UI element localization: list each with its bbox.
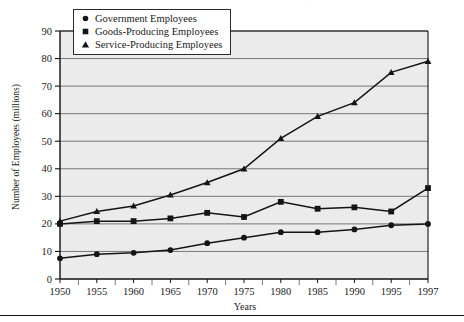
data-point xyxy=(241,235,247,241)
data-point xyxy=(352,227,358,233)
y-tick-label: 90 xyxy=(42,26,53,37)
square-marker-icon xyxy=(79,27,91,36)
data-point xyxy=(425,221,431,227)
y-tick-label: 20 xyxy=(42,218,53,229)
data-point xyxy=(388,209,394,215)
y-tick-label: 50 xyxy=(42,136,53,147)
y-tick-label: 70 xyxy=(42,81,53,92)
data-point xyxy=(388,222,394,228)
y-tick-label: 10 xyxy=(42,246,53,257)
data-point xyxy=(168,215,174,221)
x-tick-label: 1970 xyxy=(197,286,218,297)
plot-background xyxy=(60,31,428,279)
data-point xyxy=(315,229,321,235)
legend-item-label: Service-Producing Employees xyxy=(95,39,222,50)
data-point xyxy=(315,206,321,212)
data-point xyxy=(352,204,358,210)
x-tick-label: 1975 xyxy=(234,286,255,297)
y-tick-label: 80 xyxy=(42,53,53,64)
data-point xyxy=(94,251,100,257)
data-point xyxy=(94,218,100,224)
x-tick-label: 1960 xyxy=(123,286,144,297)
y-tick-label: 40 xyxy=(42,163,53,174)
data-point xyxy=(168,247,174,253)
data-point xyxy=(425,185,431,191)
legend-item-label: Goods-Producing Employees xyxy=(95,26,218,37)
plot-area: 0102030405060708090195019551960196519701… xyxy=(0,0,464,322)
legend-item-label: Government Employees xyxy=(95,13,197,24)
x-tick-label: 1965 xyxy=(160,286,181,297)
y-tick-label: 30 xyxy=(42,191,53,202)
x-tick-label: 1955 xyxy=(86,286,107,297)
x-tick-label: 1980 xyxy=(270,286,291,297)
y-tick-labels: 0102030405060708090 xyxy=(42,26,53,285)
legend-item-square: Goods-Producing Employees xyxy=(79,25,222,38)
x-tick-label: 1997 xyxy=(418,286,439,297)
legend-item-triangle: Service-Producing Employees xyxy=(79,38,222,51)
y-tick-label: 0 xyxy=(47,274,52,285)
data-point xyxy=(57,255,63,261)
circle-marker-icon xyxy=(79,14,91,23)
chart-figure: EMPLOYEES IN THREE MAJOR SECTORS, 1950-1… xyxy=(0,0,464,322)
data-point xyxy=(204,210,210,216)
data-point xyxy=(131,218,137,224)
x-tick-label: 1950 xyxy=(50,286,71,297)
triangle-marker-icon xyxy=(79,40,91,49)
y-tick-label: 60 xyxy=(42,108,53,119)
data-point xyxy=(241,214,247,220)
data-point xyxy=(278,229,284,235)
chart-legend: Government EmployeesGoods-Producing Empl… xyxy=(73,9,231,55)
legend-item-circle: Government Employees xyxy=(79,12,222,25)
x-tick-label: 1990 xyxy=(344,286,365,297)
data-point xyxy=(131,250,137,256)
footer-rule xyxy=(0,315,464,316)
data-point xyxy=(278,199,284,205)
line-chart-svg: 0102030405060708090195019551960196519701… xyxy=(0,0,464,322)
x-tick-label: 1995 xyxy=(381,286,402,297)
x-tick-label: 1985 xyxy=(307,286,328,297)
x-tick-labels: 1950195519601965197019751980198519901995… xyxy=(50,279,439,297)
data-point xyxy=(204,240,210,246)
